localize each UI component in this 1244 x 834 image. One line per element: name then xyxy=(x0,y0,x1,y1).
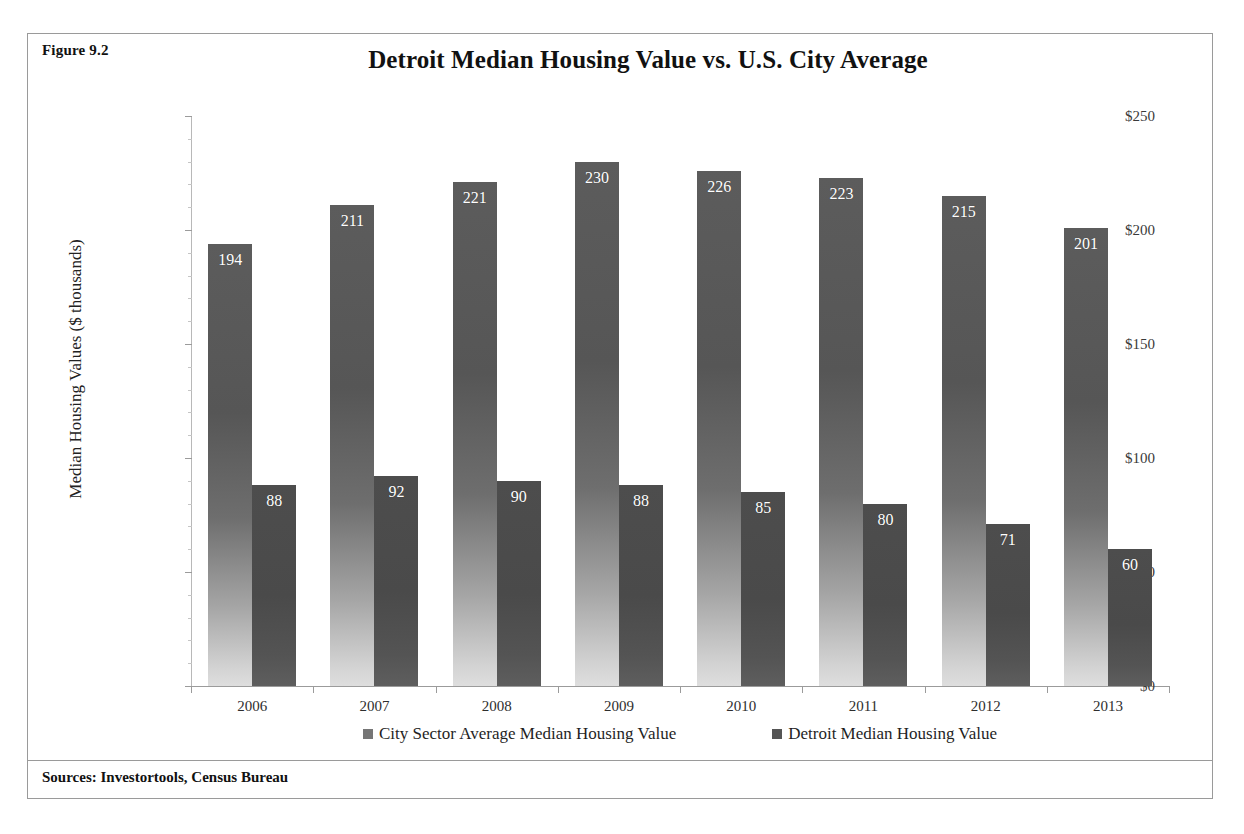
x-axis-tick xyxy=(802,686,803,693)
legend-item[interactable]: City Sector Average Median Housing Value xyxy=(363,724,676,744)
bar-value-label: 71 xyxy=(986,531,1030,549)
x-axis-tick xyxy=(558,686,559,693)
bar-value-label: 194 xyxy=(208,251,252,269)
y-axis-minor-tick xyxy=(188,162,192,163)
legend-swatch-icon xyxy=(772,729,782,739)
bar-value-label: 88 xyxy=(619,492,663,510)
bar-value-label: 221 xyxy=(453,189,497,207)
bar: 226 xyxy=(697,171,741,686)
y-axis-minor-tick xyxy=(188,184,192,185)
y-axis-minor-tick xyxy=(188,640,192,641)
y-axis-minor-tick xyxy=(188,663,192,664)
x-axis-tick xyxy=(925,686,926,693)
y-axis-minor-tick xyxy=(188,526,192,527)
legend-swatch-icon xyxy=(363,729,373,739)
bar: 194 xyxy=(208,244,252,686)
y-axis-major-tick xyxy=(185,458,192,459)
x-axis-tick-label: 2008 xyxy=(482,698,512,715)
y-axis-tick-label: $250 xyxy=(1085,108,1155,125)
plot-area: $0$50$100$150$200$250 200620072008200920… xyxy=(191,116,1169,686)
bar: 211 xyxy=(330,205,374,686)
chart-title: Detroit Median Housing Value vs. U.S. Ci… xyxy=(148,46,1148,74)
bar: 221 xyxy=(453,182,497,686)
y-axis-minor-tick xyxy=(188,321,192,322)
bar-value-label: 60 xyxy=(1108,556,1152,574)
y-axis-minor-tick xyxy=(188,481,192,482)
bar-value-label: 230 xyxy=(575,169,619,187)
y-axis-minor-tick xyxy=(188,139,192,140)
x-axis-tick xyxy=(191,686,192,693)
bar-value-label: 201 xyxy=(1064,235,1108,253)
x-axis-tick xyxy=(1169,686,1170,693)
bar: 201 xyxy=(1064,228,1108,686)
bar-value-label: 88 xyxy=(252,492,296,510)
y-axis-minor-tick xyxy=(188,367,192,368)
x-axis-tick xyxy=(680,686,681,693)
bar: 80 xyxy=(863,504,907,686)
legend-item[interactable]: Detroit Median Housing Value xyxy=(772,724,997,744)
y-axis-major-tick xyxy=(185,116,192,117)
bar-value-label: 223 xyxy=(819,185,863,203)
source-divider xyxy=(28,760,1212,761)
y-axis-minor-tick xyxy=(188,253,192,254)
bar: 85 xyxy=(741,492,785,686)
bar-value-label: 92 xyxy=(374,483,418,501)
bar: 90 xyxy=(497,481,541,686)
legend-label: City Sector Average Median Housing Value xyxy=(379,724,676,744)
bar: 88 xyxy=(619,485,663,686)
bar-value-label: 211 xyxy=(330,212,374,230)
x-axis-tick xyxy=(1047,686,1048,693)
legend-label: Detroit Median Housing Value xyxy=(788,724,997,744)
x-axis-tick-label: 2011 xyxy=(849,698,878,715)
bar-value-label: 90 xyxy=(497,488,541,506)
x-axis-tick-label: 2010 xyxy=(726,698,756,715)
bar: 92 xyxy=(374,476,418,686)
y-axis-line xyxy=(191,116,192,686)
x-axis-tick-label: 2007 xyxy=(359,698,389,715)
x-axis-tick-label: 2006 xyxy=(237,698,267,715)
bar: 60 xyxy=(1108,549,1152,686)
bar: 88 xyxy=(252,485,296,686)
y-axis-major-tick xyxy=(185,572,192,573)
bar: 215 xyxy=(942,196,986,686)
y-axis-minor-tick xyxy=(188,207,192,208)
chart-legend: City Sector Average Median Housing Value… xyxy=(191,724,1169,744)
source-note: Sources: Investortools, Census Bureau xyxy=(42,769,288,786)
y-axis-minor-tick xyxy=(188,276,192,277)
figure-label: Figure 9.2 xyxy=(42,42,109,59)
x-axis-tick-label: 2012 xyxy=(971,698,1001,715)
bar: 71 xyxy=(986,524,1030,686)
y-axis-minor-tick xyxy=(188,504,192,505)
y-axis-minor-tick xyxy=(188,435,192,436)
y-axis-minor-tick xyxy=(188,298,192,299)
y-axis-minor-tick xyxy=(188,618,192,619)
y-axis-minor-tick xyxy=(188,390,192,391)
figure-frame: Figure 9.2 Detroit Median Housing Value … xyxy=(27,33,1213,799)
x-axis-tick-label: 2009 xyxy=(604,698,634,715)
y-axis-minor-tick xyxy=(188,549,192,550)
y-axis-minor-tick xyxy=(188,412,192,413)
x-axis-tick-label: 2013 xyxy=(1093,698,1123,715)
y-axis-title: Median Housing Values ($ thousands) xyxy=(66,169,86,569)
y-axis-major-tick xyxy=(185,230,192,231)
bar-value-label: 85 xyxy=(741,499,785,517)
x-axis-tick xyxy=(313,686,314,693)
bar-value-label: 80 xyxy=(863,511,907,529)
y-axis-major-tick xyxy=(185,344,192,345)
x-axis-tick xyxy=(436,686,437,693)
bar-value-label: 226 xyxy=(697,178,741,196)
bar: 223 xyxy=(819,178,863,686)
bar-value-label: 215 xyxy=(942,203,986,221)
bar: 230 xyxy=(575,162,619,686)
y-axis-minor-tick xyxy=(188,595,192,596)
